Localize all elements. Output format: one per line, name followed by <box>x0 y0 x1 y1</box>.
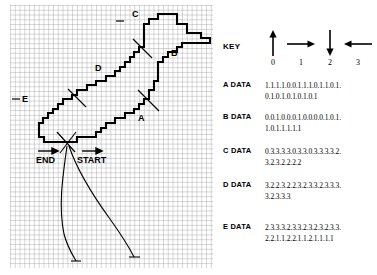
end-label: END <box>36 155 56 165</box>
key-item-0: 0 <box>258 28 288 74</box>
data-row-e-line-2: 2.2.1.1.2.2.1.1.2.1.1.1.1 <box>265 233 377 244</box>
arrow-up-icon <box>258 28 288 58</box>
data-row-d-values: 3.2.2.3.2.2.3.2.3.3.2.3.3.3. 3.2.3.3.3 <box>265 180 377 202</box>
key-block: KEY 0 1 <box>222 28 377 74</box>
data-row-d-line-2: 3.2.3.3.3 <box>265 191 377 202</box>
segment-label-e: E <box>22 94 28 104</box>
data-row-b-line-2: 1.0.1.1.1.1.1 <box>265 123 377 134</box>
segment-label-c: C <box>132 9 139 19</box>
data-row-d-line-1: 3.2.2.3.2.2.3.2.3.3.2.3.3.3. <box>265 180 377 191</box>
key-item-1: 1 <box>286 28 316 74</box>
segment-label-b: B <box>171 48 178 58</box>
key-item-2: 2 <box>315 28 345 74</box>
data-row-c-values: 0.3.3.3.3.0.3.3.0.3.3.3.3.2. 3.2.3.2.2.2… <box>265 146 377 168</box>
data-row-a-line-2: 0.1.0.1.0.1.0.1.0.1 <box>265 91 377 102</box>
start-label: START <box>77 155 107 165</box>
key-number-2: 2 <box>315 58 345 67</box>
arrow-down-icon <box>315 28 345 58</box>
data-row-a-line-1: 1.1.1.1.0.0.1.1.1.0.1.1.0.1. <box>265 80 377 91</box>
segment-label-d: D <box>95 63 102 73</box>
data-row-c-line-1: 0.3.3.3.3.0.3.3.0.3.3.3.3.2. <box>265 146 377 157</box>
data-row-a-name: A DATA <box>223 80 261 89</box>
data-row-e-name: E DATA <box>223 222 261 231</box>
arrow-right-icon <box>286 28 316 58</box>
segment-label-a: A <box>138 113 145 123</box>
data-row-d-name: D DATA <box>223 180 261 189</box>
data-row-b-name: B DATA <box>223 112 261 121</box>
data-row-e-values: 2.3.3.3.2.3.3.2.3.2.3.2.3.3. 2.2.1.1.2.2… <box>265 222 377 244</box>
key-number-3: 3 <box>343 58 373 67</box>
data-row-e-line-1: 2.3.3.3.2.3.3.2.3.2.3.2.3.3. <box>265 222 377 233</box>
grid-figure-panel: A B C D E END START <box>10 5 213 268</box>
data-row-a-values: 1.1.1.1.0.0.1.1.1.0.1.1.0.1. 0.1.0.1.0.1… <box>265 80 377 102</box>
data-row-c-name: C DATA <box>223 146 261 155</box>
key-number-0: 0 <box>258 58 288 67</box>
grid-canvas: A B C D E END START <box>10 5 213 268</box>
data-row-b-values: 0.0.1.0.0.0.1.0.0.0.0.1.0.1. 1.0.1.1.1.1… <box>265 112 377 134</box>
data-row-c-line-2: 3.2.3.2.2.2.2 <box>265 157 377 168</box>
key-title: KEY <box>223 42 240 51</box>
key-arrow-list: 0 1 2 <box>258 28 373 74</box>
arrow-left-icon <box>343 28 373 58</box>
key-number-1: 1 <box>286 58 316 67</box>
key-item-3: 3 <box>343 28 373 74</box>
data-row-b-line-1: 0.0.1.0.0.0.1.0.0.0.0.1.0.1. <box>265 112 377 123</box>
key-and-data-panel: KEY 0 1 <box>222 0 377 275</box>
